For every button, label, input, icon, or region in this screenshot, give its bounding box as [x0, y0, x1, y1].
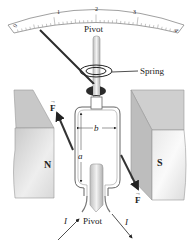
current-out-label: I	[124, 217, 129, 227]
north-label: N	[44, 159, 52, 170]
scale-tick-label-3: 3	[133, 9, 136, 15]
current-in-label: I	[63, 216, 68, 226]
dimension-a: a	[78, 113, 83, 182]
current-in-arrow	[58, 219, 79, 240]
bottom-lead-right	[105, 196, 110, 212]
dimension-b: b	[79, 123, 116, 133]
scale-tick	[170, 29, 171, 31]
scale-tick	[158, 24, 159, 28]
scale-tick	[54, 17, 55, 25]
scale-tick	[162, 27, 163, 29]
north-magnet: N	[14, 90, 55, 198]
force-left-label: F	[50, 103, 56, 113]
scale-tick	[137, 17, 138, 25]
scale-tick-label-0: 0	[12, 23, 19, 29]
force-left-arrow	[57, 113, 73, 150]
spring-label: Spring	[140, 66, 165, 76]
galvanometer-diagram: 0 1 2 3 4 Pivot N S Spring	[0, 0, 192, 249]
force-right-label: F	[135, 195, 141, 205]
side-a-label: a	[78, 151, 83, 161]
scale-tick	[30, 27, 31, 29]
south-label: S	[157, 157, 163, 168]
current-out-arrow	[112, 214, 132, 238]
south-magnet: S	[131, 90, 186, 200]
current-in: I	[58, 216, 79, 240]
scale-tick	[18, 30, 19, 32]
scale-tick	[166, 28, 167, 30]
spring: Spring	[80, 65, 165, 77]
loop-top-connector	[91, 97, 102, 109]
bottom-lead-left	[82, 196, 87, 212]
scale-tick	[26, 28, 27, 30]
spring-leader-line	[112, 71, 138, 72]
scale-tick-label-1: 1	[57, 9, 60, 15]
current-out: I	[112, 214, 132, 238]
scale-tick	[22, 29, 23, 31]
north-magnet-top	[14, 90, 54, 128]
shaft-collar-center	[93, 84, 100, 95]
pivot-top-label: Pivot	[84, 24, 104, 34]
scale-tick	[34, 24, 35, 28]
bottom-shaft	[90, 164, 103, 212]
force-left-vector-arrow: →	[50, 98, 56, 104]
meter-needle	[40, 30, 94, 84]
pivot-bottom-label: Pivot	[83, 216, 103, 226]
scale-tick-label-2: 2	[95, 6, 98, 12]
force-right-vector-arrow: →	[135, 190, 141, 196]
side-b-label: b	[94, 123, 99, 133]
